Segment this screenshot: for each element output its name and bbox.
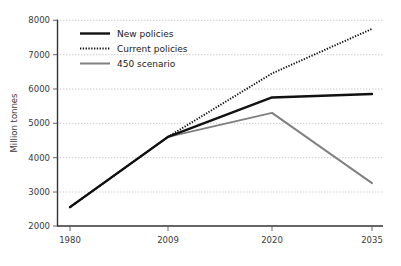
line-chart: 8000 7000 6000 5000 4000 3000 2000 1980 …: [0, 0, 401, 266]
x-tick-labels: 1980 2009 2020 2035: [59, 235, 383, 245]
x-axis-label-2020: 2020: [261, 235, 283, 245]
y-axis-label-5000: 5000: [28, 118, 50, 128]
x-tick-marks: [70, 226, 372, 231]
legend-label-current-policies: Current policies: [117, 44, 188, 54]
legend-label-new-policies: New policies: [117, 29, 174, 39]
y-tick-labels: 8000 7000 6000 5000 4000 3000 2000: [28, 15, 50, 231]
series-group: [70, 29, 372, 207]
chart-legend: New policies Current policies 450 scenar…: [80, 29, 188, 69]
y-axis-label-3000: 3000: [28, 187, 50, 197]
x-axis-label-1980: 1980: [59, 235, 81, 245]
series-line-450-scenario: [70, 113, 372, 207]
y-axis-label-7000: 7000: [28, 50, 50, 60]
chart-container: 8000 7000 6000 5000 4000 3000 2000 1980 …: [0, 0, 401, 266]
x-axis-label-2009: 2009: [157, 235, 179, 245]
y-axis-label-4000: 4000: [28, 153, 50, 163]
y-axis-title: Million tonnes: [9, 93, 19, 153]
legend-label-450-scenario: 450 scenario: [117, 59, 176, 69]
y-axis-label-8000: 8000: [28, 15, 50, 25]
gridlines: [57, 20, 383, 192]
y-axis-label-6000: 6000: [28, 84, 50, 94]
x-axis-label-2035: 2035: [361, 235, 383, 245]
y-axis-label-2000: 2000: [28, 221, 50, 231]
